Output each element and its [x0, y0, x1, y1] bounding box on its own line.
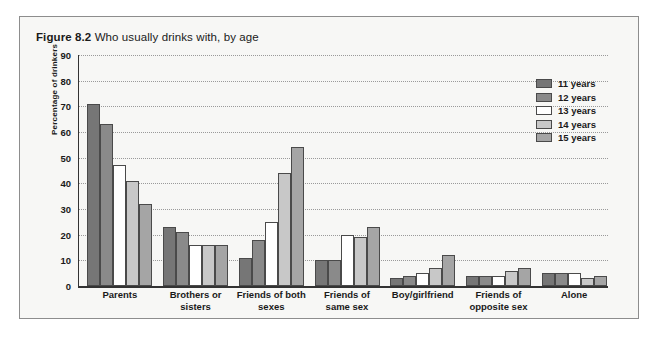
bar — [518, 268, 531, 286]
bar — [341, 235, 354, 286]
x-axis-category-label: Friends of bothsexes — [237, 289, 306, 312]
bar — [100, 124, 113, 286]
bar — [315, 260, 328, 286]
bar — [505, 271, 518, 286]
bar-group-bars — [390, 55, 455, 286]
bar-group-bars — [163, 55, 228, 286]
bar — [429, 268, 442, 286]
bar — [403, 276, 416, 286]
x-axis-category-line: sisters — [170, 301, 222, 313]
y-axis-title: Percentage of drinkers — [50, 44, 59, 135]
bar — [215, 245, 228, 286]
bar — [278, 173, 291, 286]
bar — [354, 237, 367, 286]
x-axis-category-label: Boy/girlfriend — [392, 289, 454, 301]
bar — [163, 227, 176, 286]
bar — [202, 245, 215, 286]
y-tick-label: 60 — [60, 127, 71, 138]
x-axis-category-label: Brothers orsisters — [170, 289, 222, 312]
bar-group: Friends of bothsexes — [239, 55, 304, 286]
x-axis-category-label: Alone — [561, 289, 587, 301]
bar — [568, 273, 581, 286]
bar — [416, 273, 429, 286]
bar — [390, 278, 403, 286]
x-axis-category-line: same sex — [324, 301, 370, 313]
x-axis-category-line: opposite sex — [469, 301, 527, 313]
x-axis-category-line: Friends of — [324, 289, 370, 301]
bar-group: Boy/girlfriend — [390, 55, 455, 286]
y-tick-label: 80 — [60, 75, 71, 86]
legend-item: 11 years — [536, 77, 632, 91]
bar-group-bars — [87, 55, 152, 286]
x-axis-category-label: Friends ofopposite sex — [469, 289, 527, 312]
x-axis-line — [78, 286, 608, 288]
bar — [328, 260, 341, 286]
figure-root: Figure 8.2 Who usually drinks with, by a… — [0, 0, 658, 337]
legend-label: 15 years — [558, 132, 596, 143]
bar-group-bars — [315, 55, 380, 286]
bar-group: Parents — [87, 55, 152, 286]
x-axis-category-label: Parents — [102, 289, 137, 301]
bar — [139, 204, 152, 286]
bar — [555, 273, 568, 286]
legend-swatch — [536, 106, 552, 115]
x-axis-category-line: Boy/girlfriend — [392, 289, 454, 301]
legend-label: 14 years — [558, 119, 596, 130]
x-axis-category-line: Brothers or — [170, 289, 222, 301]
legend-swatch — [536, 93, 552, 102]
y-tick-label: 30 — [60, 204, 71, 215]
bar — [291, 147, 304, 286]
legend-item: 15 years — [536, 131, 632, 145]
bar — [239, 258, 252, 286]
x-axis-category-label: Friends ofsame sex — [324, 289, 370, 312]
y-tick-label: 90 — [60, 50, 71, 61]
bar — [113, 165, 126, 286]
bar — [466, 276, 479, 286]
legend-label: 11 years — [558, 78, 596, 89]
bar — [265, 222, 278, 286]
legend-item: 14 years — [536, 118, 632, 132]
y-tick-label: 40 — [60, 178, 71, 189]
bar — [442, 255, 455, 286]
legend-label: 13 years — [558, 105, 596, 116]
bar — [189, 245, 202, 286]
legend-swatch — [536, 133, 552, 142]
bar — [492, 276, 505, 286]
y-tick-label: 0 — [66, 281, 71, 292]
plot-area: 0102030405060708090 ParentsBrothers orsi… — [78, 55, 608, 287]
x-axis-category-line: Friends of — [469, 289, 527, 301]
bar — [176, 232, 189, 286]
y-tick-label: 70 — [60, 101, 71, 112]
bar — [126, 181, 139, 286]
bar-group: Friends ofopposite sex — [466, 55, 531, 286]
bar — [581, 278, 594, 286]
y-tick-label: 20 — [60, 229, 71, 240]
y-tick-label: 50 — [60, 152, 71, 163]
legend-swatch — [536, 120, 552, 129]
bar — [542, 273, 555, 286]
figure-title: Figure 8.2 Who usually drinks with, by a… — [36, 31, 259, 43]
x-axis-category-line: Alone — [561, 289, 587, 301]
bar — [367, 227, 380, 286]
x-axis-category-line: Friends of both — [237, 289, 306, 301]
figure-title-text: Who usually drinks with, by age — [95, 31, 259, 43]
bar — [594, 276, 607, 286]
bar — [479, 276, 492, 286]
figure-number: Figure 8.2 — [36, 31, 91, 43]
bar-group-bars — [466, 55, 531, 286]
legend-label: 12 years — [558, 92, 596, 103]
y-axis-line — [78, 55, 79, 287]
bar-group: Brothers orsisters — [163, 55, 228, 286]
bar — [252, 240, 265, 286]
legend-swatch — [536, 79, 552, 88]
bar — [87, 104, 100, 286]
x-axis-category-line: Parents — [102, 289, 137, 301]
legend-item: 13 years — [536, 104, 632, 118]
y-tick-label: 10 — [60, 255, 71, 266]
bar-group-bars — [239, 55, 304, 286]
x-axis-category-line: sexes — [237, 301, 306, 313]
legend-item: 12 years — [536, 91, 632, 105]
figure-panel: Figure 8.2 Who usually drinks with, by a… — [19, 16, 639, 319]
bar-group: Friends ofsame sex — [315, 55, 380, 286]
legend: 11 years12 years13 years14 years15 years — [536, 77, 632, 145]
